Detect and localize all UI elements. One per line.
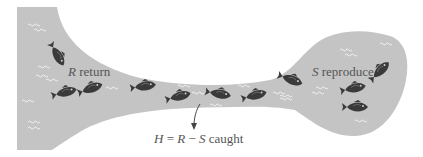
reproduce-label: S reproduce (312, 64, 374, 80)
caught-equation: H = R − S caught (154, 131, 243, 147)
return-label: R return (68, 64, 110, 80)
